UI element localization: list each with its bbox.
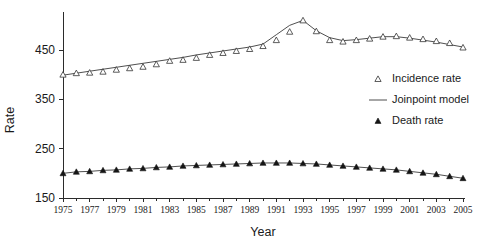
incidence-rate-markers — [60, 17, 466, 77]
x-tick-label: 1989 — [240, 205, 259, 215]
legend-item-label: Death rate — [392, 114, 443, 126]
x-axis: 1975197719791981198319851987198919911993… — [54, 198, 473, 215]
x-tick-label: 1987 — [214, 205, 233, 215]
y-tick-label: 250 — [35, 142, 55, 156]
incidence-rate-point — [167, 58, 173, 64]
chart-legend: Incidence rateJoinpoint modelDeath rate — [369, 72, 469, 126]
x-tick-label: 1983 — [160, 205, 179, 215]
death-rate-markers — [60, 160, 466, 181]
x-tick-label: 1977 — [80, 205, 99, 215]
y-axis: 150250350450 — [35, 12, 63, 205]
incidence-rate-point — [60, 72, 66, 78]
x-tick-label: 1995 — [320, 205, 339, 215]
x-tick-label: 1979 — [107, 205, 126, 215]
incidence-rate-point — [140, 64, 146, 70]
x-tick-label: 1997 — [347, 205, 366, 215]
y-tick-label: 450 — [35, 43, 55, 57]
rate-trend-line-chart: 150250350450 197519771979198119831985198… — [0, 0, 491, 243]
incidence-rate-point — [447, 40, 453, 46]
x-tick-label: 2001 — [400, 205, 419, 215]
incidence-rate-point — [433, 38, 439, 44]
incidence-rate-point — [393, 33, 399, 39]
x-tick-label: 2005 — [454, 205, 473, 215]
x-axis-title: Year — [250, 225, 275, 239]
incidence-rate-point — [407, 35, 413, 41]
chart-figure: 150250350450 197519771979198119831985198… — [0, 0, 491, 243]
y-axis-title: Rate — [3, 107, 17, 133]
x-tick-label: 1975 — [54, 205, 73, 215]
incidence-rate-point — [340, 39, 346, 45]
y-tick-label: 150 — [35, 191, 55, 205]
x-tick-label: 1999 — [374, 205, 393, 215]
incidence-rate-point — [87, 70, 93, 76]
legend-item-label: Incidence rate — [392, 72, 461, 84]
legend-filled-triangle-icon — [375, 118, 381, 123]
x-tick-label: 2003 — [427, 205, 446, 215]
incidence-rate-point — [260, 43, 266, 49]
legend-item-label: Joinpoint model — [392, 93, 469, 105]
x-tick-label: 1981 — [134, 205, 153, 215]
x-tick-label: 1993 — [294, 205, 313, 215]
incidence-rate-point — [287, 29, 293, 35]
incidence-rate-point — [300, 17, 306, 23]
incidence-rate-point — [420, 36, 426, 42]
x-tick-label: 1985 — [187, 205, 206, 215]
legend-open-triangle-icon — [375, 76, 381, 82]
y-tick-label: 350 — [35, 92, 55, 106]
incidence-rate-point — [273, 37, 279, 43]
incidence-rate-point — [460, 44, 466, 50]
x-tick-label: 1991 — [267, 205, 286, 215]
